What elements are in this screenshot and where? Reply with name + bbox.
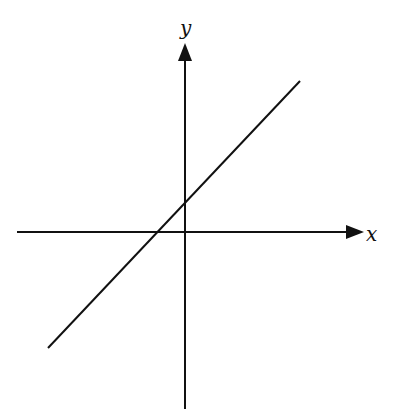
y-axis-arrow-icon xyxy=(178,43,192,61)
x-axis-arrow-icon xyxy=(346,225,364,239)
plotted-line xyxy=(48,81,300,348)
coordinate-diagram: x y xyxy=(0,0,395,409)
x-axis: x xyxy=(17,222,377,246)
x-axis-label: x xyxy=(366,222,377,246)
y-axis: y xyxy=(178,16,192,409)
y-axis-label: y xyxy=(179,16,192,40)
